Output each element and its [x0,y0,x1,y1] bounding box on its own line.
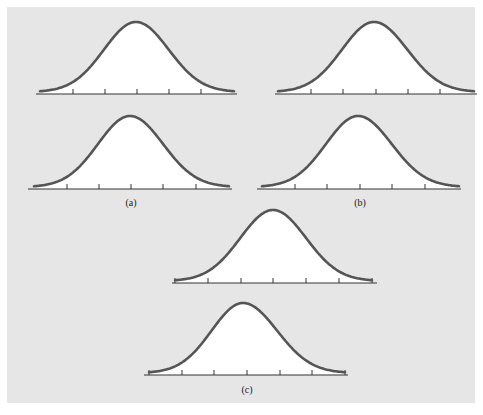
curve-b-bottom [257,116,461,189]
label-a: (a) [125,197,136,209]
group-c: (c) [144,210,377,396]
curve-c-top [172,210,377,283]
group-a: (a) [28,22,237,209]
label-c: (c) [241,384,252,396]
group-b: (b) [257,22,477,209]
label-b: (b) [354,197,366,209]
curve-a-top [36,22,237,94]
curve-a-bottom [28,116,232,189]
normal-curves-figure: (a) (b) (c) [0,0,483,415]
curve-b-top [275,22,477,94]
curve-c-bottom [144,303,348,375]
